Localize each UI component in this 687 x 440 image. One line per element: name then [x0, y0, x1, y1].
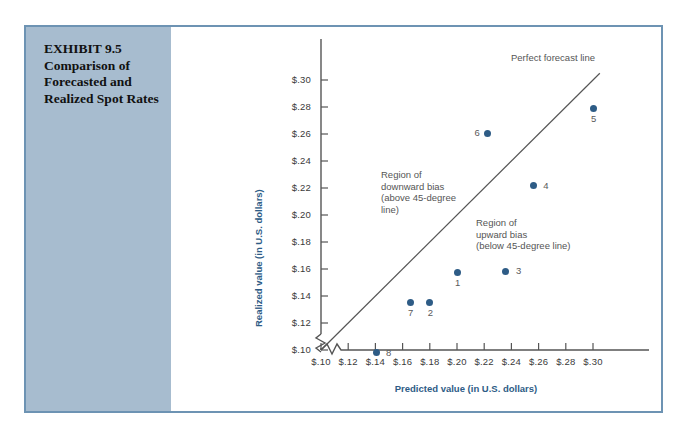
y-tick-label: $.28 [277, 101, 311, 112]
y-tick-label: $.14 [277, 290, 311, 301]
annotation-line: Region of [381, 169, 486, 181]
data-point-label: 6 [475, 127, 480, 138]
data-point[interactable] [426, 299, 433, 306]
exhibit-frame: EXHIBIT 9.5 Comparison of Forecasted and… [24, 25, 663, 413]
y-tick-label: $.22 [277, 182, 311, 193]
annotation-line: (below 45-degree line) [476, 240, 611, 252]
data-point[interactable] [502, 268, 509, 275]
exhibit-title-line-2: Comparison of [44, 58, 168, 75]
exhibit-title: EXHIBIT 9.5 Comparison of Forecasted and… [44, 41, 168, 107]
exhibit-title-line-3: Forecasted and [44, 74, 168, 91]
x-tick-label: $.24 [497, 356, 525, 367]
x-axis-title: Predicted value (in U.S. dollars) [301, 383, 631, 394]
x-tick-label: $.20 [443, 356, 471, 367]
annotation-line: upward bias [476, 229, 611, 241]
data-point-label: 1 [455, 277, 460, 288]
x-tick-label: $.26 [525, 356, 553, 367]
data-point-label: 7 [408, 307, 413, 318]
scatter-chart: $.10$.12$.14$.16$.18$.20$.22$.24$.26$.28… [171, 27, 661, 411]
x-tick-label: $.12 [334, 356, 362, 367]
upward-bias-annotation: Region ofupward bias(below 45-degree lin… [476, 217, 611, 252]
data-point[interactable] [454, 269, 461, 276]
exhibit-sidebar-panel: EXHIBIT 9.5 Comparison of Forecasted and… [26, 27, 171, 411]
y-tick-label: $.30 [277, 74, 311, 85]
y-axis-title: Realized value (in U.S. dollars) [253, 189, 264, 327]
y-tick-label: $.24 [277, 155, 311, 166]
data-point[interactable] [590, 105, 597, 112]
y-tick-label: $.18 [277, 236, 311, 247]
data-point[interactable] [484, 130, 491, 137]
x-tick-label: $.30 [579, 356, 607, 367]
annotation-line: Region of [476, 217, 611, 229]
data-point-label: 3 [516, 265, 521, 276]
exhibit-number: EXHIBIT 9.5 [44, 41, 168, 58]
data-point-label: 8 [386, 347, 391, 358]
x-tick-label: $.22 [470, 356, 498, 367]
annotation-line: downward bias [381, 181, 486, 193]
data-point-label: 2 [428, 307, 433, 318]
x-tick-label: $.16 [389, 356, 417, 367]
exhibit-title-line-4: Realized Spot Rates [44, 91, 168, 108]
annotation-line: (above 45-degree [381, 192, 486, 204]
y-tick-label: $.26 [277, 128, 311, 139]
perfect-forecast-line-label: Perfect forecast line [511, 52, 595, 63]
data-point-label: 4 [543, 180, 548, 191]
data-point[interactable] [373, 349, 380, 356]
x-tick-label: $.10 [307, 356, 335, 367]
x-tick-label: $.18 [416, 356, 444, 367]
y-tick-label: $.10 [277, 344, 311, 355]
y-tick-label: $.16 [277, 263, 311, 274]
y-tick-label: $.20 [277, 209, 311, 220]
downward-bias-annotation: Region ofdownward bias(above 45-degreeli… [381, 169, 486, 215]
data-point[interactable] [407, 299, 414, 306]
y-tick-label: $.12 [277, 317, 311, 328]
data-point-label: 5 [591, 113, 596, 124]
annotation-line: line) [381, 204, 486, 216]
x-tick-label: $.28 [552, 356, 580, 367]
